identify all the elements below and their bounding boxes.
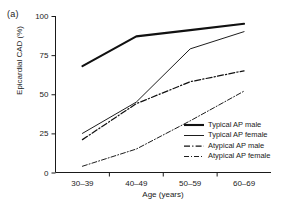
legend-label-3: Atypical AP female <box>208 151 270 160</box>
series-line-0 <box>82 24 244 66</box>
legend-label-1: Typical AP female <box>208 130 267 139</box>
y-tick-label: 50 <box>40 90 49 99</box>
series-line-2 <box>82 71 244 140</box>
chart-legend: Typical AP maleTypical AP femaleAtypical… <box>184 120 270 161</box>
x-tick-label: 50–59 <box>179 179 202 188</box>
y-tick-label: 0 <box>44 169 49 178</box>
legend-label-0: Typical AP male <box>208 120 261 129</box>
y-tick-label: 100 <box>35 12 49 21</box>
line-chart-plot: 0255075100 30–3940–4950–5960–69 Typical … <box>0 0 286 209</box>
y-tick-label: 25 <box>40 129 49 138</box>
series-line-1 <box>82 32 244 134</box>
x-tick-group: 30–3940–4950–5960–69 <box>71 173 255 188</box>
y-tick-group: 0255075100 <box>35 12 55 178</box>
x-tick-label: 60–69 <box>233 179 256 188</box>
x-tick-label: 30–39 <box>71 179 94 188</box>
y-tick-label: 75 <box>40 51 49 60</box>
legend-label-2: Atypical AP male <box>208 141 264 150</box>
x-tick-label: 40–49 <box>125 179 148 188</box>
figure-panel-a: (a) Epicardial CAD (%) Age (years) 02550… <box>0 0 286 209</box>
